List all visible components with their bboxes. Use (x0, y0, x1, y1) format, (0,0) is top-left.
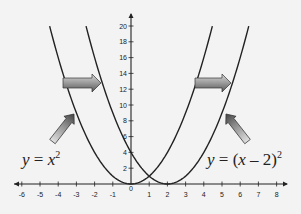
x-tick-label: 1 (147, 191, 151, 198)
y-tick-label: 20 (119, 23, 127, 30)
shift-arrow-right (195, 74, 231, 92)
x-tick-label: 5 (220, 191, 224, 198)
x-tick-label: 4 (202, 191, 206, 198)
x-tick-label: -6 (19, 191, 25, 198)
pointer-arrow-x-squared (47, 110, 79, 146)
x-tick-label: 3 (184, 191, 188, 198)
x-tick-label: -3 (73, 191, 79, 198)
x-tick-label: -1 (110, 191, 116, 198)
x-tick-label: -4 (55, 191, 61, 198)
y-tick-label: 8 (123, 117, 127, 124)
pointer-arrow-x-minus-2-squared (221, 110, 253, 146)
x-tick-label: -5 (37, 191, 43, 198)
parabola-shift-chart: -6-5-4-3-2-10123456782468101214161820 y … (0, 0, 301, 214)
x-tick-label: 2 (165, 191, 169, 198)
y-tick-label: 10 (119, 102, 127, 109)
axis-ticks: -6-5-4-3-2-10123456782468101214161820 (19, 23, 279, 199)
equation-label-x-minus-2-squared: y = (x – 2)2 (205, 149, 282, 169)
y-tick-label: 18 (119, 38, 127, 45)
x-tick-label: 8 (275, 191, 279, 198)
shift-arrows (47, 74, 252, 146)
y-tick-label: 14 (119, 70, 127, 77)
x-tick-label: -2 (91, 191, 97, 198)
graph-figure: -6-5-4-3-2-10123456782468101214161820 y … (0, 0, 301, 214)
y-tick-label: 4 (123, 149, 127, 156)
y-tick-label: 2 (123, 165, 127, 172)
x-tick-label: 6 (238, 191, 242, 198)
x-tick-label: 0 (129, 185, 133, 192)
x-tick-label: 7 (256, 191, 260, 198)
y-tick-label: 16 (119, 54, 127, 61)
y-tick-label: 12 (119, 86, 127, 93)
equation-label-x-squared: y = x2 (20, 149, 60, 169)
